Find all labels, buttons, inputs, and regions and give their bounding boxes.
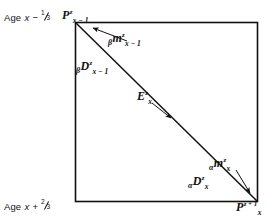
alpha-d-subscript: x <box>204 182 208 191</box>
fraction-numerator: 1 <box>41 10 45 17</box>
age-label-bottom-operator: + <box>33 201 39 212</box>
age-label-top-prefix: Age <box>4 12 21 23</box>
age-label-bottom-fraction: 2 3 <box>41 200 52 211</box>
beta-d-subscript: x − 1 <box>92 67 108 76</box>
beta-d-base: D <box>80 59 89 73</box>
age-label-bottom-variable: x <box>24 201 30 212</box>
alpha-m-superscript: z <box>223 156 226 164</box>
age-label-bottom-prefix: Age <box>4 201 21 212</box>
e-center-superscript: z <box>145 89 148 97</box>
alpha-m-subscript: x <box>226 164 230 173</box>
age-label-bottom: Age x + 2 3 <box>4 200 52 212</box>
age-label-top: Age x − 1 3 <box>4 11 52 23</box>
corner-top-left-subscript: x − 1 <box>72 16 88 25</box>
diagonal-lifeline <box>76 23 257 201</box>
lexis-diagram-figure: Age x − 1 3 Age x + 2 3 Pzx − 1 βmzx − 1… <box>0 0 280 223</box>
corner-label-top-left: Pzx − 1 <box>62 9 88 24</box>
age-label-top-fraction: 1 3 <box>41 11 52 22</box>
alpha-d-superscript: z <box>201 174 204 182</box>
beta-m-superscript: z <box>122 31 125 39</box>
age-label-top-operator: − <box>33 12 39 23</box>
beta-m-base: m <box>112 31 121 45</box>
e-center-subscript: x <box>148 97 152 106</box>
corner-top-left-superscript: z <box>69 8 72 16</box>
corner-label-bottom-right: Pz + 1x <box>236 201 261 216</box>
corner-bottom-right-superscript: z + 1 <box>243 200 257 208</box>
age-label-top-variable: x <box>24 12 30 23</box>
fraction-denominator: 3 <box>46 15 50 22</box>
e-center-base: E <box>137 89 145 103</box>
arrow-e-center <box>152 103 171 118</box>
annotation-beta-m: βmzx − 1 <box>108 32 141 47</box>
fraction-denominator: 3 <box>46 204 50 211</box>
annotation-beta-d: βDzx − 1 <box>76 60 108 75</box>
annotation-alpha-d: αDzx <box>188 175 208 190</box>
beta-m-subscript: x − 1 <box>125 39 141 48</box>
corner-bottom-right-subscript: x <box>257 208 261 217</box>
beta-d-superscript: z <box>89 59 92 67</box>
fraction-numerator: 2 <box>41 199 45 206</box>
alpha-m-base: m <box>214 156 223 170</box>
annotation-alpha-m: αmzx <box>209 157 230 172</box>
annotation-e-center: Ezx <box>137 90 152 105</box>
